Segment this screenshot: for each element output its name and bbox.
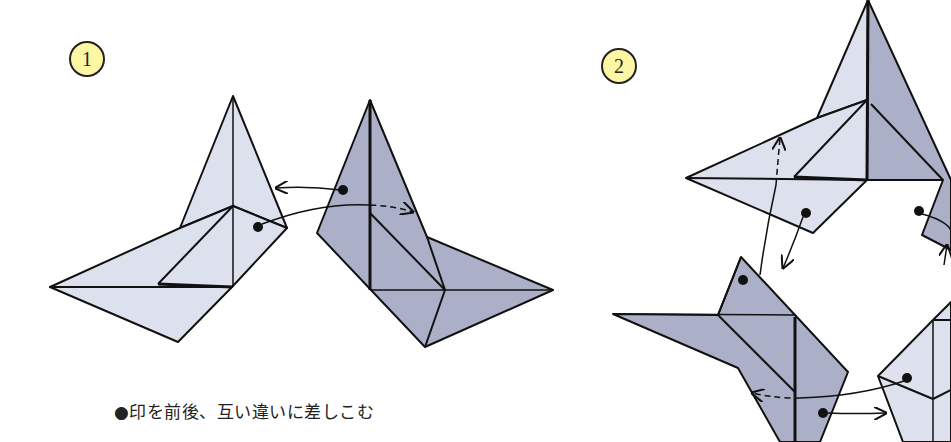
step2-right-unit <box>878 302 951 442</box>
step1-light-unit <box>50 96 287 342</box>
step-1-instruction: ●印を前後、互い違いに差しこむ <box>114 398 374 423</box>
insert-dot <box>253 222 263 232</box>
step1-dark-unit <box>317 100 553 347</box>
step2-left-unit <box>613 257 848 442</box>
insert-dot <box>738 275 748 285</box>
step2-top-unit <box>686 0 951 250</box>
origami-diagram <box>0 0 951 442</box>
insert-dot <box>801 208 811 218</box>
insert-dot <box>818 408 828 418</box>
